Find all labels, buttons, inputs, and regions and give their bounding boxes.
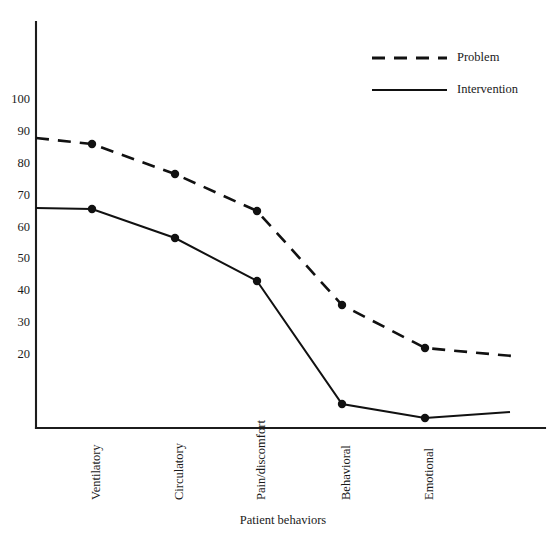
- y-tick-label: 30: [18, 315, 31, 329]
- x-category-labels: Ventilatory Circulatory Pain/discomfort …: [89, 420, 436, 500]
- x-category-label-emotional: Emotional: [422, 447, 436, 500]
- x-category-label-pain-discomfort: Pain/discomfort: [254, 420, 268, 500]
- data-point: [421, 414, 429, 422]
- chart-legend: Problem Intervention: [372, 50, 519, 96]
- legend-entry-intervention: Intervention: [372, 82, 519, 96]
- x-category-label-behavioral: Behavioral: [339, 445, 353, 500]
- y-tick-label: 90: [18, 124, 31, 138]
- y-tick-label: 50: [18, 251, 31, 265]
- y-tick-labels: 100 90 80 70 60 50 40 30 20: [11, 92, 30, 361]
- y-tick-label: 20: [18, 347, 31, 361]
- legend-label-intervention: Intervention: [457, 82, 519, 96]
- series-intervention: [36, 205, 510, 422]
- data-point: [338, 400, 346, 408]
- data-point: [88, 140, 96, 148]
- data-point: [253, 207, 261, 215]
- data-point: [171, 170, 179, 178]
- series-problem-line: [36, 138, 512, 356]
- data-point: [421, 344, 429, 352]
- data-point: [253, 277, 261, 285]
- y-tick-label: 100: [11, 92, 30, 106]
- y-tick-label: 40: [18, 283, 31, 297]
- legend-label-problem: Problem: [457, 50, 500, 64]
- data-point: [171, 234, 179, 242]
- y-tick-label: 80: [18, 156, 31, 170]
- x-axis-title: Patient behaviors: [240, 513, 327, 527]
- line-chart-figure: 100 90 80 70 60 50 40 30 20 Ventilatory …: [0, 0, 554, 537]
- legend-entry-problem: Problem: [372, 50, 500, 64]
- chart-canvas: 100 90 80 70 60 50 40 30 20 Ventilatory …: [0, 0, 554, 537]
- x-category-label-ventilatory: Ventilatory: [89, 444, 103, 500]
- data-point: [88, 205, 96, 213]
- x-category-label-circulatory: Circulatory: [172, 442, 186, 500]
- series-intervention-line: [36, 208, 510, 418]
- data-point: [338, 301, 346, 309]
- series-problem: [36, 138, 512, 356]
- y-tick-label: 70: [18, 188, 31, 202]
- y-tick-label: 60: [18, 220, 31, 234]
